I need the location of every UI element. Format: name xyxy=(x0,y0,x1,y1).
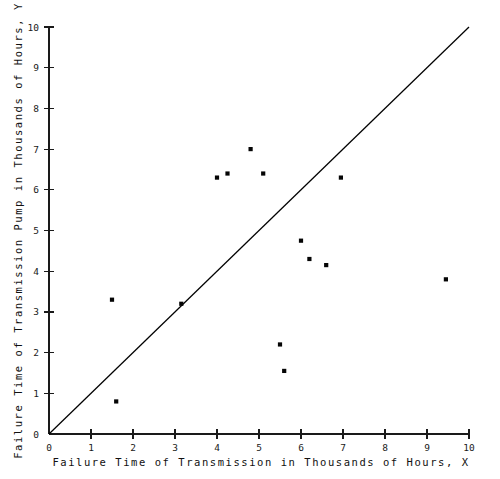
x-tick-label-8: 8 xyxy=(382,442,388,453)
x-tick-label-10: 10 xyxy=(463,442,475,453)
x-axis-title: Failure Time of Transmission in Thousand… xyxy=(52,456,469,468)
y-tick-label-10: 10 xyxy=(28,22,40,33)
x-tick-label-1: 1 xyxy=(88,442,94,453)
x-tick-label-3: 3 xyxy=(172,442,178,453)
data-point-11 xyxy=(324,263,328,267)
scatter-plot-figure: 012345678910012345678910Failure Time of … xyxy=(0,0,500,479)
data-point-3 xyxy=(215,175,219,179)
identity-line xyxy=(49,27,469,434)
data-point-12 xyxy=(339,175,343,179)
x-tick-label-0: 0 xyxy=(46,442,52,453)
data-point-8 xyxy=(282,369,286,373)
data-point-1 xyxy=(110,298,114,302)
y-tick-label-5: 5 xyxy=(33,225,39,236)
y-tick-label-4: 4 xyxy=(33,266,39,277)
y-tick-label-9: 9 xyxy=(33,62,39,73)
data-point-9 xyxy=(299,239,303,243)
x-tick-label-6: 6 xyxy=(298,442,304,453)
data-point-6 xyxy=(261,171,265,175)
data-point-5 xyxy=(249,147,253,151)
y-tick-label-0: 0 xyxy=(33,429,39,440)
y-tick-label-6: 6 xyxy=(33,184,39,195)
x-tick-label-5: 5 xyxy=(256,442,262,453)
y-tick-label-3: 3 xyxy=(33,306,39,317)
x-tick-label-7: 7 xyxy=(340,442,346,453)
data-point-13 xyxy=(444,277,448,281)
data-point-0 xyxy=(114,399,118,403)
y-tick-label-7: 7 xyxy=(33,144,39,155)
y-tick-label-2: 2 xyxy=(33,347,39,358)
y-tick-label-1: 1 xyxy=(33,388,39,399)
data-point-4 xyxy=(225,171,229,175)
y-axis-title: Failure Time of Transmission Pump in Tho… xyxy=(12,2,24,459)
data-point-2 xyxy=(179,302,183,306)
chart-canvas: 012345678910012345678910Failure Time of … xyxy=(0,0,500,479)
x-tick-label-4: 4 xyxy=(214,442,220,453)
x-tick-label-9: 9 xyxy=(424,442,430,453)
data-point-7 xyxy=(278,342,282,346)
data-point-10 xyxy=(307,257,311,261)
y-tick-label-8: 8 xyxy=(33,103,39,114)
x-tick-label-2: 2 xyxy=(130,442,136,453)
